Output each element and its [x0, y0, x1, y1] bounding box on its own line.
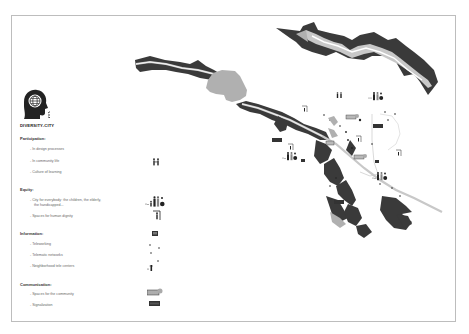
city-map [0, 0, 469, 334]
urban-blocks [274, 116, 412, 238]
river-main [135, 56, 442, 212]
river-north [276, 22, 438, 95]
road [380, 114, 400, 150]
